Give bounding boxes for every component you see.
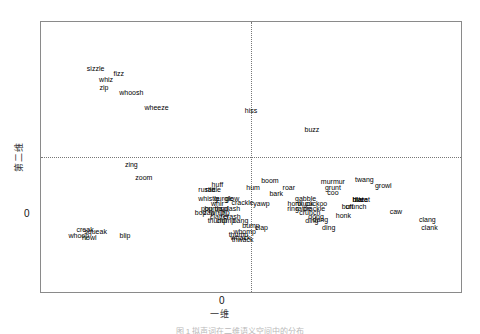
scatter-word-label: ding: [322, 224, 335, 231]
scatter-word-label: clap: [255, 224, 268, 231]
scatter-word-label: crunch: [345, 202, 366, 209]
y-zero-reference-line: [41, 157, 461, 158]
x-axis-tick-zero: 0: [219, 296, 225, 306]
y-axis-tick-zero: 0: [24, 209, 30, 219]
scatter-word-label: clang: [419, 216, 436, 223]
scatter-word-label: buzz: [304, 125, 319, 132]
scatter-word-label: coo: [327, 189, 338, 196]
scatter-word-label: blip: [120, 232, 131, 239]
scatter-word-label: wheeze: [144, 104, 168, 111]
scatter-word-label: thwack: [232, 236, 254, 243]
scatter-word-label: roar: [283, 183, 295, 190]
scatter-word-label: ding: [305, 217, 318, 224]
scatter-word-label: howl: [82, 233, 96, 240]
scatter-word-label: whoosh: [119, 89, 143, 96]
scatter-word-label: whiz: [99, 75, 113, 82]
figure-container: sizzlefizzwhizzipwhooshwheezehissbuzzzin…: [0, 0, 480, 334]
scatter-word-label: fizz: [113, 70, 124, 77]
scatter-word-label: zing: [125, 160, 138, 167]
scatter-word-label: zoom: [135, 174, 152, 181]
y-axis-label: 第二维: [12, 133, 25, 181]
plot-area: sizzlefizzwhizzipwhooshwheezehissbuzzzin…: [40, 21, 462, 293]
figure-caption: 图 1 拟声词在二维语义空间中的分布: [0, 325, 480, 334]
scatter-word-label: honk: [336, 212, 351, 219]
scatter-word-label: bark: [269, 190, 283, 197]
scatter-word-label: growl: [375, 182, 392, 189]
scatter-word-label: hiss: [245, 106, 257, 113]
scatter-word-label: yawp: [253, 199, 269, 206]
scatter-word-label: hum: [246, 183, 260, 190]
x-axis-label: 一维: [210, 307, 230, 320]
scatter-word-label: rattle: [205, 186, 221, 193]
scatter-word-label: caw: [390, 208, 402, 215]
scatter-word-label: twang: [355, 175, 374, 182]
scatter-word-label: sizzle: [87, 64, 105, 71]
scatter-word-label: boom: [261, 176, 279, 183]
scatter-word-label: clank: [421, 224, 437, 231]
scatter-word-label: zip: [100, 83, 109, 90]
